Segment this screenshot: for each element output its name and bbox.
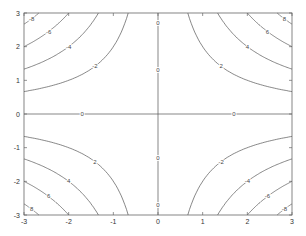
contour-label: -4 [66,44,72,50]
contour-label: 8 [30,206,34,212]
contour-label: -8 [29,16,35,22]
x-tick-label: 2 [245,218,249,225]
contour-label: 0 [156,67,160,73]
contour-label: 0 [156,155,160,161]
contour-label: 0 [156,202,160,208]
plot-area: -8-8-6-6-4-4-2-222446688000000-3-2-10123… [0,0,306,236]
contour-line-neg2 [188,136,292,215]
x-tick-label: -3 [21,218,27,225]
contour-label: -8 [282,206,288,212]
y-tick-label: 0 [16,111,20,118]
y-tick-label: 2 [16,43,20,50]
contour-line-2 [24,136,128,215]
contour-label: 0 [156,20,160,26]
contour-chart: -8-8-6-6-4-4-2-222446688000000-3-2-10123… [0,0,306,236]
y-tick-label: -1 [14,144,20,151]
contour-label: -2 [218,159,224,165]
x-tick-label: 1 [201,218,205,225]
x-tick-label: -2 [66,218,72,225]
contour-line-4 [24,159,98,215]
contour-label: -6 [265,193,271,199]
contour-label: 6 [47,193,51,199]
y-tick-label: -2 [14,178,20,185]
contour-label: 6 [266,29,270,35]
contour-line-4 [218,13,292,69]
contour-label: -6 [46,29,52,35]
x-tick-label: 0 [156,218,160,225]
contour-label: -4 [245,178,251,184]
contour-label: 2 [93,159,97,165]
contour-label: 2 [219,63,223,69]
contour-label: 4 [67,178,71,184]
contour-line-2 [188,13,292,92]
x-tick-label: -1 [110,218,116,225]
contour-line-neg2 [24,13,128,92]
contour-label: 8 [283,16,287,22]
contour-label: 4 [246,44,250,50]
y-tick-label: 1 [16,77,20,84]
y-tick-label: 3 [16,10,20,17]
y-tick-label: -3 [14,212,20,219]
contour-line-neg4 [24,13,98,69]
contour-label: -2 [92,63,98,69]
x-tick-label: 3 [290,218,294,225]
